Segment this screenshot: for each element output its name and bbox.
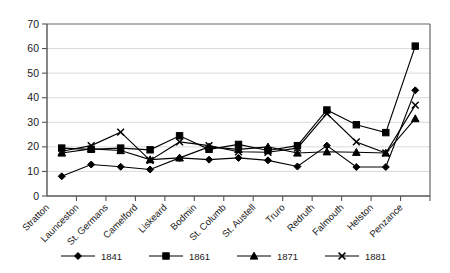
y-axis-tick-label: 70 <box>27 18 39 30</box>
data-point-marker <box>412 43 418 49</box>
data-point-marker <box>206 156 213 163</box>
legend: 1841186118711881 <box>61 251 386 262</box>
data-point-marker <box>163 253 169 259</box>
data-point-marker <box>382 164 389 171</box>
series-line-1871 <box>62 119 416 160</box>
data-point-marker <box>412 87 419 94</box>
data-point-marker <box>58 173 65 180</box>
x-axis-group: StrattonLauncestonSt. GermansCamelfordLi… <box>20 196 430 247</box>
legend-label-1871: 1871 <box>277 251 298 262</box>
y-axis-tick-label: 50 <box>27 67 39 79</box>
data-point-marker <box>147 147 153 153</box>
data-point-marker <box>264 157 271 164</box>
y-axis-tick-label: 60 <box>27 42 39 54</box>
y-axis-tick-label: 20 <box>27 140 39 152</box>
series-line-1841 <box>62 90 416 176</box>
y-axis-tick-label: 40 <box>27 91 39 103</box>
series-1841 <box>58 87 419 180</box>
data-point-marker <box>411 115 419 122</box>
x-axis-tick-label: Truro <box>263 202 287 226</box>
data-point-marker <box>147 166 154 173</box>
x-axis-tick-label: Falmouth <box>310 202 346 238</box>
data-point-marker <box>88 161 95 168</box>
gridlines-group: 010203040506070 <box>27 18 430 202</box>
plot-frame-group <box>47 24 430 196</box>
x-axis-tick-label: Liskeard <box>136 202 169 235</box>
data-point-marker <box>176 133 182 139</box>
line-chart: 010203040506070StrattonLauncestonSt. Ger… <box>0 0 450 273</box>
legend-label-1861: 1861 <box>189 251 210 262</box>
data-point-marker <box>294 163 301 170</box>
y-axis-tick-label: 0 <box>33 190 39 202</box>
data-point-marker <box>75 253 82 260</box>
data-point-marker <box>235 154 242 161</box>
series-1861 <box>59 43 419 154</box>
data-point-marker <box>353 122 359 128</box>
legend-label-1841: 1841 <box>101 251 122 262</box>
legend-label-1881: 1881 <box>365 251 386 262</box>
y-axis-tick-label: 30 <box>27 116 39 128</box>
chart-canvas: 010203040506070StrattonLauncestonSt. Ger… <box>0 0 450 273</box>
data-point-marker <box>117 163 124 170</box>
y-axis-tick-label: 10 <box>27 165 39 177</box>
data-point-marker <box>383 129 389 135</box>
